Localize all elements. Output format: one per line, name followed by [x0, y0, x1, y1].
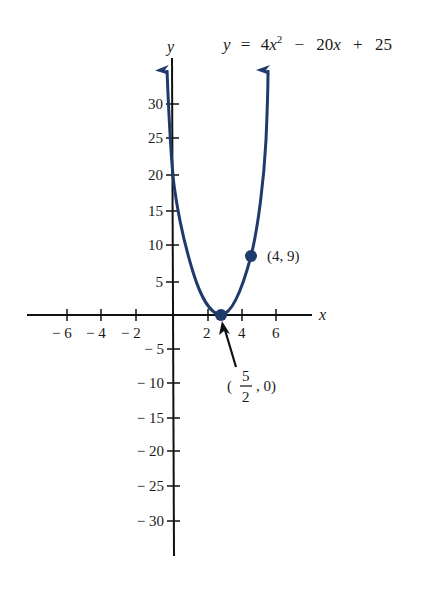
- svg-text:− 10: − 10: [137, 375, 164, 391]
- svg-text:− 25: − 25: [137, 478, 164, 494]
- vertex-pointer-arrow: [225, 330, 236, 367]
- chart-title: y = 4x2 − 20x + 25: [221, 28, 392, 54]
- parabola-left-branch: [167, 70, 221, 315]
- y-axis-label: y: [165, 38, 175, 56]
- parabola-right-branch: [221, 70, 268, 315]
- svg-text:− 5: − 5: [144, 341, 164, 357]
- svg-text:2: 2: [203, 325, 211, 341]
- svg-text:30: 30: [148, 96, 163, 112]
- svg-text:25: 25: [148, 130, 163, 146]
- point-4-9-label: (4, 9): [267, 248, 300, 265]
- svg-text:− 15: − 15: [137, 410, 164, 426]
- point-4-9: [245, 250, 257, 262]
- svg-text:− 6: − 6: [52, 325, 72, 341]
- svg-text:− 4: − 4: [86, 325, 106, 341]
- y-axis: [172, 58, 174, 556]
- x-axis-label: x: [318, 306, 326, 323]
- svg-text:4: 4: [238, 325, 246, 341]
- svg-text:, 0): , 0): [256, 378, 276, 395]
- svg-text:2: 2: [242, 389, 250, 405]
- svg-text:y = 4x2 −: y = 4x2 − 20x + 25: [221, 28, 392, 54]
- svg-text:5: 5: [156, 274, 164, 290]
- svg-text:10: 10: [148, 237, 163, 253]
- svg-text:15: 15: [148, 203, 163, 219]
- svg-text:− 30: − 30: [137, 513, 164, 529]
- x-tick-labels: − 6 − 4 − 2 2 4 6: [52, 325, 280, 341]
- parabola-chart: x y − 6 − 4 − 2 2 4 6 30 25 20 1: [0, 0, 421, 589]
- vertex-pointer-arrowhead: [219, 321, 230, 335]
- vertex-point: [215, 309, 227, 321]
- y-tick-labels: 30 25 20 15 10 5 − 5 − 10 − 15 − 20 − 25…: [137, 96, 164, 529]
- svg-text:5: 5: [242, 368, 250, 384]
- vertex-label: ( 5 2 , 0): [227, 368, 276, 405]
- svg-text:− 2: − 2: [121, 325, 141, 341]
- svg-text:20: 20: [148, 167, 163, 183]
- svg-text:6: 6: [272, 325, 280, 341]
- svg-text:(: (: [227, 378, 232, 395]
- svg-text:− 20: − 20: [137, 443, 164, 459]
